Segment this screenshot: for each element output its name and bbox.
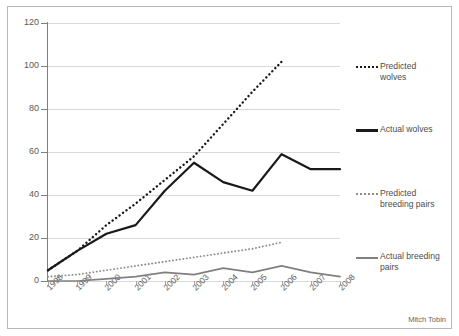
y-axis-tick [41, 152, 47, 153]
y-axis-tick-label: 40 [5, 190, 39, 199]
y-axis-tick [41, 66, 47, 67]
y-axis-tick [41, 238, 47, 239]
legend-swatch [356, 257, 378, 260]
legend-swatch [356, 66, 378, 68]
y-axis-tick [41, 109, 47, 110]
gridline [48, 109, 340, 110]
chart-figure: 020406080100120 199819992000200120022003… [0, 0, 459, 336]
gridline [48, 238, 340, 239]
gridline [48, 66, 340, 67]
gridline [48, 23, 340, 24]
gridline [48, 195, 340, 196]
y-axis-tick-label: 60 [5, 147, 39, 156]
y-axis-tick-label-wrap: 100 [0, 61, 39, 70]
legend-label: Predicted wolves [380, 61, 444, 82]
y-axis-tick [41, 195, 47, 196]
legend-label: Actual wolves [380, 124, 444, 135]
y-axis-tick-label: 80 [5, 104, 39, 113]
y-axis-tick-label: 0 [5, 276, 39, 285]
y-axis-tick-label-wrap: 0 [0, 276, 39, 285]
credit-text: Mitch Tobin [408, 315, 446, 324]
y-axis-tick-label: 120 [5, 18, 39, 27]
legend-swatch [356, 193, 378, 195]
y-axis-tick-label-wrap: 80 [0, 104, 39, 113]
legend-label: Predicted breeding pairs [380, 188, 444, 209]
y-axis-tick-label: 20 [5, 233, 39, 242]
y-axis-tick-label-wrap: 60 [0, 147, 39, 156]
y-axis-tick-label-wrap: 20 [0, 233, 39, 242]
y-axis-tick-label-wrap: 120 [0, 18, 39, 27]
legend-label: Actual breeding pairs [380, 251, 444, 272]
y-axis-tick [41, 23, 47, 24]
y-axis-tick-label-wrap: 40 [0, 190, 39, 199]
gridline [48, 152, 340, 153]
legend-swatch [356, 129, 378, 132]
y-axis-tick-label: 100 [5, 61, 39, 70]
